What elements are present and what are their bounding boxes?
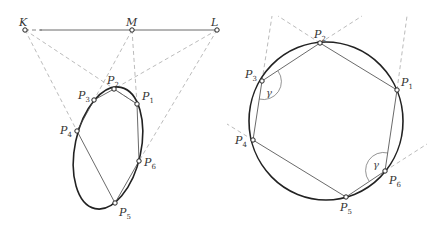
- left-vertex-p1: [135, 102, 139, 106]
- left-vertex-p5: [113, 201, 117, 205]
- extension-line-p6-right: [385, 144, 427, 171]
- right-vertex-p6: [383, 169, 387, 173]
- left-label-p4: P4: [59, 124, 72, 139]
- right-vertex-p4: [251, 138, 255, 142]
- construction-line-k-p4: [25, 30, 77, 131]
- label-m: M: [125, 16, 138, 29]
- left-figure: K M L P1 P2 P3 P4 P5 P6: [18, 16, 219, 221]
- construction-line-l-p6: [139, 30, 217, 161]
- left-vertex-p3: [92, 98, 96, 102]
- conic-ellipse: [63, 80, 153, 215]
- angle-label-gamma-p6: γ: [373, 159, 379, 170]
- right-figure: γ γ P1 P2 P3 P4 P5 P6: [227, 16, 427, 216]
- right-vertex-p1: [395, 88, 399, 92]
- left-vertex-p4: [75, 129, 79, 133]
- inscribed-hexagon-right: [253, 43, 397, 197]
- conic-circle: [249, 42, 403, 200]
- inscribed-hexagon-left: [77, 89, 139, 203]
- left-vertex-p6: [137, 159, 141, 163]
- right-vertex-p5: [344, 195, 348, 199]
- construction-line-m-p1: [132, 30, 137, 104]
- angle-label-gamma-p3: γ: [266, 87, 272, 98]
- right-label-p3: P3: [244, 68, 257, 83]
- left-label-p1: P1: [141, 90, 154, 105]
- label-k: K: [18, 16, 28, 29]
- pascal-theorem-diagram: K M L P1 P2 P3 P4 P5 P6: [0, 0, 440, 225]
- left-label-p6: P6: [143, 156, 156, 171]
- extension-line-p2-right: [320, 16, 362, 43]
- right-label-p2: P2: [313, 28, 326, 43]
- right-vertex-p3: [260, 79, 264, 83]
- diagram-canvas: K M L P1 P2 P3 P4 P5 P6: [0, 0, 440, 225]
- right-label-p4: P4: [234, 134, 247, 149]
- left-label-p3: P3: [77, 89, 90, 104]
- right-label-p5: P5: [339, 201, 352, 216]
- right-label-p1: P1: [400, 76, 413, 91]
- right-label-p6: P6: [388, 174, 401, 189]
- construction-line-l-p2: [114, 30, 217, 89]
- label-l: L: [210, 16, 218, 29]
- left-label-p2: P2: [106, 74, 119, 89]
- left-label-p5: P5: [118, 206, 131, 221]
